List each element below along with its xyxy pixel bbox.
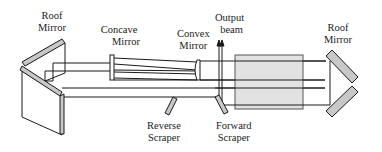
beam-cc-mid — [114, 70, 197, 71]
beam-cc-bottom-in — [114, 72, 197, 74]
left-roof-mirror-edge-strip — [60, 94, 64, 134]
left-roof-mirror-upper-strip — [22, 39, 65, 66]
label-concave-mirror: Concave Mirror — [98, 24, 140, 48]
reverse-scraper — [165, 97, 177, 115]
concave-mirror — [110, 55, 114, 80]
label-forward-scraper: Forward Scraper — [216, 120, 252, 144]
right-roof-mirror-lower — [326, 86, 358, 117]
resonator-diagram: Roof Mirror Concave Mirror Convex Mirror… — [0, 0, 382, 152]
label-left-roof-mirror: Roof Mirror — [38, 10, 66, 34]
label-reverse-scraper: Reverse Scraper — [147, 120, 181, 144]
beam-left-inner-b — [45, 73, 65, 81]
label-convex-mirror: Convex Mirror — [177, 28, 210, 52]
beam-cc-top-in — [114, 64, 197, 70]
beam-cc-top-out — [114, 58, 197, 62]
right-roof-mirror-upper — [326, 50, 358, 83]
convex-mirror — [195, 60, 200, 80]
gain-medium — [235, 55, 303, 109]
output-beam-arrow-b — [220, 40, 224, 46]
label-output-beam: Output beam — [215, 12, 244, 36]
label-right-roof-mirror: Roof Mirror — [324, 22, 352, 46]
